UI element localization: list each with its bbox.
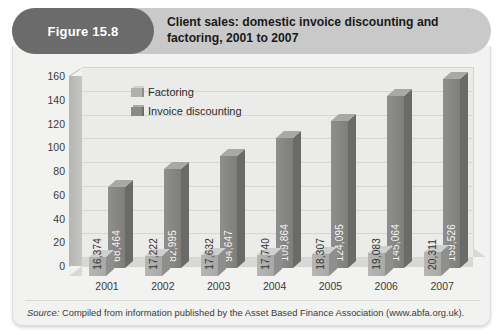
bar-group-2004: 109,86417,740 <box>257 86 313 276</box>
bar-value-label-factoring-2005: 18,307 <box>315 238 326 270</box>
bar-side-face <box>460 72 468 268</box>
bar-factoring-2005: 18,307 <box>312 254 329 276</box>
bar-factoring-2006: 19,083 <box>368 253 385 276</box>
x-axis-label-2006: 2006 <box>363 280 409 292</box>
x-axis-label-2003: 2003 <box>196 280 242 292</box>
bar-value-label-factoring-2001: 16,374 <box>92 238 103 270</box>
bar-factoring-2003: 17,632 <box>201 255 218 276</box>
source-divider <box>25 300 480 301</box>
bar-group-2006: 145,06419,083 <box>368 86 424 276</box>
y-axis: 160140120100806040200 <box>31 46 65 294</box>
legend-swatch-factoring-icon <box>131 88 142 97</box>
y-axis-tick-60: 60 <box>35 189 65 201</box>
legend-item-factoring: Factoring <box>131 84 242 100</box>
bar-group-2007: 159,52620,311 <box>424 86 480 276</box>
bar-invoice-discounting-2007: 159,526 <box>443 79 460 268</box>
y-axis-tick-20: 20 <box>35 236 65 248</box>
x-axis-label-2007: 2007 <box>419 280 465 292</box>
bar-side-face <box>293 131 301 268</box>
bar-side-face <box>237 149 245 268</box>
y-axis-tick-160: 160 <box>35 70 65 82</box>
y-axis-tick-120: 120 <box>35 118 65 130</box>
bar-group-2005: 124,09518,307 <box>312 86 368 276</box>
gridline-160 <box>82 67 473 68</box>
legend-item-invoice-discounting: Invoice discounting <box>131 103 242 119</box>
legend-swatch-invoice-discounting-icon <box>131 107 142 116</box>
bar-factoring-2001: 16,374 <box>89 257 106 276</box>
source-note: Source: Compiled from information publis… <box>27 307 464 318</box>
y-axis-tick-100: 100 <box>35 141 65 153</box>
x-axis-label-2005: 2005 <box>307 280 353 292</box>
bar-value-label-factoring-2003: 17,632 <box>204 238 215 270</box>
bar-invoice-discounting-2006: 145,064 <box>387 96 404 268</box>
source-text: Compiled from information published by t… <box>59 307 464 318</box>
plot-3d-box: 68,46416,37482,99517,22294,64717,632109,… <box>69 76 473 276</box>
legend-label-factoring: Factoring <box>148 86 194 98</box>
y-axis-tick-0: 0 <box>35 260 65 272</box>
bar-factoring-2002: 17,222 <box>145 256 162 276</box>
figure-header: Figure 15.8 Client sales: domestic invoi… <box>12 8 491 54</box>
x-axis-label-2002: 2002 <box>140 280 186 292</box>
bar-value-label-factoring-2006: 19,083 <box>371 238 382 270</box>
y-axis-tick-80: 80 <box>35 165 65 177</box>
figure-number-pill: Figure 15.8 <box>12 8 154 54</box>
figure-body-panel: 160140120100806040200 68,46416,37482,995… <box>12 46 491 326</box>
x-axis-label-2004: 2004 <box>252 280 298 292</box>
bar-invoice-discounting-2005: 124,095 <box>331 121 348 268</box>
bar-side-face <box>348 114 356 268</box>
chart-legend: Factoring Invoice discounting <box>131 84 242 122</box>
bar-value-label-factoring-2002: 17,222 <box>148 238 159 270</box>
bar-value-label-factoring-2007: 20,311 <box>427 239 438 270</box>
figure-number-label: Figure 15.8 <box>48 24 119 39</box>
bar-factoring-2007: 20,311 <box>424 252 441 276</box>
bar-side-face <box>404 89 412 268</box>
figure-card: 160140120100806040200 68,46416,37482,995… <box>12 8 491 326</box>
legend-label-invoice-discounting: Invoice discounting <box>148 105 242 117</box>
chart-area: 160140120100806040200 68,46416,37482,995… <box>13 46 492 294</box>
bar-side-face <box>125 180 133 268</box>
bar-factoring-2004: 17,740 <box>257 255 274 276</box>
bar-side-face <box>181 162 189 268</box>
y-axis-tick-140: 140 <box>35 94 65 106</box>
source-label: Source: <box>27 307 59 318</box>
figure-title: Client sales: domestic invoice discounti… <box>167 15 485 46</box>
bar-value-label-factoring-2004: 17,740 <box>260 238 271 270</box>
y-axis-tick-40: 40 <box>35 213 65 225</box>
x-axis-label-2001: 2001 <box>84 280 130 292</box>
